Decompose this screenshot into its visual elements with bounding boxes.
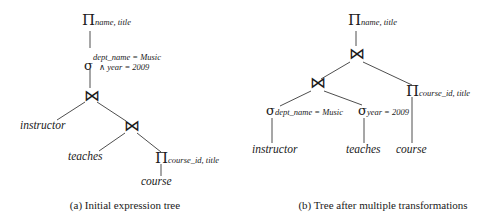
sigma-operator-icon: σ bbox=[358, 103, 367, 118]
pi-operator-icon: Π bbox=[155, 149, 168, 167]
b-relation-course: course bbox=[396, 144, 427, 156]
b-select-dept-name-node: σdept_name = Music bbox=[266, 104, 343, 117]
b-project-course-subscript: course_id, title bbox=[419, 88, 470, 98]
sigma-operator-icon: σ bbox=[84, 58, 93, 73]
b-join-lower-node: ⋈ bbox=[310, 75, 326, 91]
a-relation-instructor: instructor bbox=[20, 120, 65, 132]
b-project-name-title-node: Πname, title bbox=[348, 13, 397, 28]
caption-b: (b) Tree after multiple transformations bbox=[273, 199, 493, 211]
b-select-year-node: σyear = 2009 bbox=[358, 104, 409, 117]
join-operator-icon: ⋈ bbox=[84, 86, 100, 105]
b-join-upper-node: ⋈ bbox=[349, 46, 365, 62]
caption-a: (a) Initial expression tree bbox=[25, 199, 225, 211]
a-select-subscript-line1: dept_name = Music bbox=[93, 52, 161, 62]
edge-b-join-lower-to-select-year bbox=[324, 91, 362, 105]
b-select-year-subscript: year = 2009 bbox=[367, 107, 409, 117]
a-select-subscript-line2: ∧ year = 2009 bbox=[93, 63, 149, 73]
b-relation-instructor: instructor bbox=[252, 144, 297, 156]
join-operator-icon: ⋈ bbox=[310, 73, 326, 92]
a-join-lower-node: ⋈ bbox=[124, 118, 140, 134]
pi-operator-icon: Π bbox=[348, 11, 361, 29]
pi-operator-icon: Π bbox=[82, 11, 95, 29]
a-select-node: σdept_name = Music∧ year = 2009 bbox=[84, 53, 161, 72]
a-project-subscript: name, title bbox=[95, 17, 131, 27]
join-operator-icon: ⋈ bbox=[124, 116, 140, 135]
tree-edges bbox=[0, 0, 503, 220]
b-relation-teaches: teaches bbox=[346, 144, 380, 156]
a-join-upper-node: ⋈ bbox=[84, 88, 100, 104]
sigma-operator-icon: σ bbox=[266, 103, 275, 118]
edge-a-join-upper-to-instructor bbox=[57, 102, 85, 120]
b-project-course-node: Πcourse_id, title bbox=[406, 84, 470, 99]
a-project-name-title-node: Πname, title bbox=[82, 13, 131, 28]
a-project-course-node: Πcourse_id, title bbox=[155, 151, 219, 166]
b-select-dept-name-subscript: dept_name = Music bbox=[275, 107, 343, 117]
a-relation-teaches: teaches bbox=[68, 151, 102, 163]
edge-a-join-lower-to-teaches bbox=[99, 133, 125, 151]
edge-a-join-upper-to-join-lower bbox=[97, 102, 126, 121]
pi-operator-icon: Π bbox=[406, 82, 419, 100]
a-select-subscript: dept_name = Music∧ year = 2009 bbox=[93, 53, 161, 72]
b-project-subscript: name, title bbox=[361, 17, 397, 27]
a-project-course-subscript: course_id, title bbox=[168, 155, 219, 165]
expression-tree-figure: Πname, title σdept_name = Music∧ year = … bbox=[0, 0, 503, 220]
a-relation-course: course bbox=[141, 176, 172, 188]
join-operator-icon: ⋈ bbox=[349, 44, 365, 63]
edge-b-join-upper-to-project-course bbox=[363, 62, 412, 85]
